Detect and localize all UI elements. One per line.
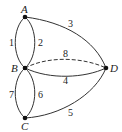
edge-label-4: 4 — [63, 75, 68, 86]
node-label-d: D — [109, 62, 118, 74]
edge-6 — [25, 68, 35, 118]
graph-diagram: A B C D 1 2 3 4 5 6 7 8 — [0, 0, 122, 132]
edge-label-7: 7 — [9, 89, 14, 100]
node-label-c: C — [21, 120, 29, 132]
node-b — [23, 66, 28, 71]
edge-label-8: 8 — [63, 48, 68, 59]
edge-label-1: 1 — [9, 37, 14, 48]
node-d — [104, 66, 109, 71]
edge-label-3: 3 — [68, 18, 73, 29]
edge-8 — [25, 59, 106, 68]
edge-label-6: 6 — [38, 89, 43, 100]
edge-2 — [25, 17, 35, 68]
edge-7 — [15, 68, 25, 118]
edge-1 — [15, 17, 25, 68]
edge-label-5: 5 — [68, 107, 73, 118]
node-a — [23, 15, 28, 20]
node-label-b: B — [11, 62, 18, 74]
edge-label-2: 2 — [38, 37, 43, 48]
node-label-a: A — [20, 3, 28, 15]
